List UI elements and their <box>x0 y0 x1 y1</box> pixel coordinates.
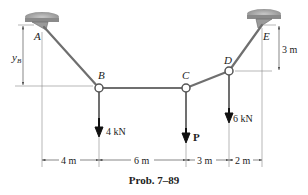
point-label-c: C <box>182 69 190 81</box>
point-label-e: E <box>262 30 270 42</box>
cable-segment-cd <box>186 71 229 88</box>
ring-d-icon <box>225 67 233 75</box>
e-height-label: 3 m <box>282 44 298 55</box>
dim-label-bc: 6 m <box>134 155 150 166</box>
arrow-down-icon <box>225 113 233 123</box>
arrow-down-icon <box>182 133 190 143</box>
load-label-c: P <box>193 131 200 143</box>
hanger-rods <box>99 75 229 130</box>
dim-label-cd: 3 m <box>197 155 213 166</box>
ring-b-icon <box>95 84 103 92</box>
dim-label-ab: 4 m <box>61 155 77 166</box>
load-label-b: 4 kN <box>106 126 126 137</box>
dim-label-de: 2 m <box>235 155 251 166</box>
cable-diagram: yB 3 m 4 m 6 m 3 m 2 m A B C D E 4 kN P … <box>0 0 308 195</box>
ring-c-icon <box>182 84 190 92</box>
figure-caption: Prob. 7–89 <box>0 174 308 186</box>
point-label-b: B <box>98 69 105 81</box>
yb-label: yB <box>11 51 22 65</box>
pin-bracket-icon <box>256 19 272 28</box>
arrow-down-icon <box>95 127 103 137</box>
load-label-d: 6 kN <box>233 113 253 124</box>
cable-segment-ab <box>44 27 99 88</box>
cable-segment-de <box>229 25 262 71</box>
point-label-d: D <box>223 54 232 66</box>
support-a <box>25 12 59 30</box>
point-label-a: A <box>33 30 41 42</box>
reference-lines <box>15 25 276 167</box>
